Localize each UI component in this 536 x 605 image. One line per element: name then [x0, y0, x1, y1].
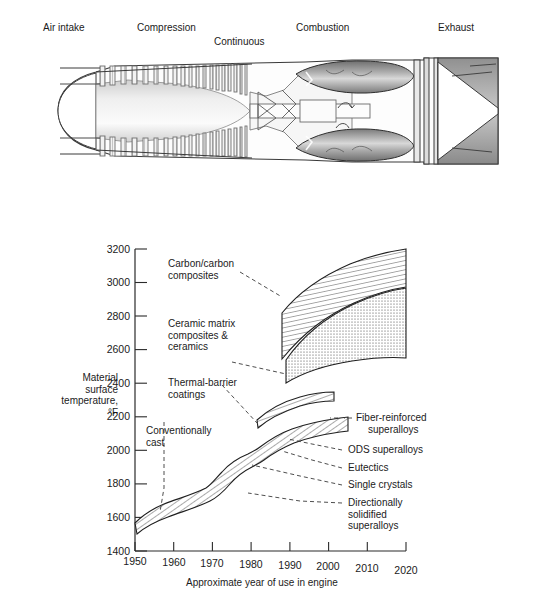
annotation-line: Single crystals — [348, 479, 412, 491]
engine-label-combustion: Combustion — [296, 22, 349, 33]
x-tick-2000: 2000 — [308, 560, 348, 572]
annotation-line: Eutectics — [348, 462, 389, 474]
x-tick-1970: 1970 — [192, 557, 232, 569]
annotation-line: Ceramic matrix — [168, 318, 235, 330]
annotation-ods-superalloys: ODS superalloys — [348, 444, 423, 456]
annotation-line: Conventionally — [146, 425, 212, 437]
annotation-carbon-carbon-composites: Carbon/carbon composites — [168, 258, 234, 281]
x-tick-1950: 1950 — [115, 555, 155, 567]
annotation-line: Fiber-reinforced — [356, 412, 427, 424]
annotation-line: composites — [168, 270, 234, 282]
annotation-line: superalloys — [348, 520, 402, 532]
figure-page: Air intake Compression Continuous Combus… — [0, 0, 536, 605]
engine-label-compression: Compression — [137, 22, 196, 33]
annotation-thermal-barrier-coatings: Thermal-barrier coatings — [168, 377, 237, 400]
annotation-fiber-reinforced-superalloys: Fiber-reinforced superalloys — [356, 412, 427, 435]
y-axis-title-line-2: surface — [14, 384, 118, 396]
jet-engine-diagram: Air intake Compression Continuous Combus… — [0, 0, 536, 222]
annotation-conventionally-cast: Conventionally cast — [146, 425, 212, 448]
y-tick-2800: 2800 — [96, 310, 130, 322]
engine-label-continuous: Continuous — [214, 36, 265, 47]
y-axis-ticks — [135, 249, 147, 551]
x-tick-1980: 1980 — [231, 558, 271, 570]
x-tick-1990: 1990 — [270, 559, 310, 571]
annotation-line: coatings — [168, 389, 237, 401]
x-tick-2020: 2020 — [386, 564, 426, 576]
turbine-vanes — [414, 58, 438, 164]
jet-engine-illustration — [0, 0, 536, 222]
engine-label-exhaust: Exhaust — [438, 22, 474, 33]
y-axis-title: Material surface temperature, °F — [14, 372, 118, 418]
annotation-single-crystals: Single crystals — [348, 479, 412, 491]
x-tick-2010: 2010 — [347, 562, 387, 574]
y-tick-1800: 1800 — [96, 477, 130, 489]
annotation-line: Carbon/carbon — [168, 258, 234, 270]
annotation-line: Thermal-barrier — [168, 377, 237, 389]
y-axis-title-line-3: temperature, — [14, 395, 118, 407]
y-tick-3000: 3000 — [96, 276, 130, 288]
y-tick-2600: 2600 — [96, 343, 130, 355]
y-axis-title-line-4: °F — [14, 407, 118, 419]
annotation-line: composites & — [168, 330, 235, 342]
annotation-ceramic-matrix-composites: Ceramic matrix composites & ceramics — [168, 318, 235, 353]
annotation-line: cast — [146, 437, 212, 449]
y-axis-title-line-1: Material — [14, 372, 118, 384]
x-tick-1960: 1960 — [154, 556, 194, 568]
y-tick-2000: 2000 — [96, 444, 130, 456]
annotation-line: superalloys — [356, 424, 427, 436]
x-axis-title: Approximate year of use in engine — [186, 577, 338, 589]
annotation-eutectics: Eutectics — [348, 462, 389, 474]
x-axis-ticks — [135, 542, 406, 551]
y-tick-3200: 3200 — [96, 243, 130, 255]
annotation-directionally-solidified-superalloys: Directionally solidified superalloys — [348, 497, 402, 532]
engine-label-air-intake: Air intake — [43, 22, 85, 33]
material-temperature-chart: 3200 3000 2800 2600 2400 2200 2000 1800 … — [0, 222, 536, 605]
y-tick-1600: 1600 — [96, 511, 130, 523]
annotation-line: solidified — [348, 509, 402, 521]
annotation-line: Directionally — [348, 497, 402, 509]
annotation-line: ceramics — [168, 341, 235, 353]
annotation-line: ODS superalloys — [348, 444, 423, 456]
